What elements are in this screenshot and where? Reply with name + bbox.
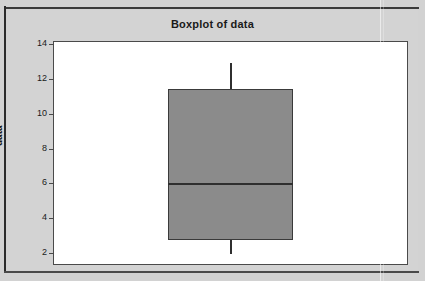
y-axis-tick-mark <box>49 253 53 254</box>
y-axis-tick: 4 <box>7 218 53 219</box>
window-border-bottom <box>4 271 419 273</box>
y-axis-tick-label: 8 <box>42 143 47 153</box>
boxplot-upper-whisker <box>230 63 232 89</box>
y-axis-tick: 12 <box>7 79 53 80</box>
chart-title: Boxplot of data <box>7 18 418 30</box>
y-axis-tick: 8 <box>7 149 53 150</box>
y-axis-tick: 10 <box>7 114 53 115</box>
y-axis-tick: 6 <box>7 183 53 184</box>
window-seam-secondary <box>383 0 384 281</box>
plot-frame <box>53 41 408 265</box>
y-axis-tick-label: 6 <box>42 177 47 187</box>
plot-area <box>54 42 407 264</box>
window-frame: Boxplot of data data 2468101214 <box>0 0 425 281</box>
y-axis-tick-mark <box>49 79 53 80</box>
y-axis-tick-label: 4 <box>42 212 47 222</box>
boxplot-box <box>168 89 293 240</box>
y-axis-label: data <box>0 125 4 146</box>
y-axis-tick-label: 12 <box>37 73 47 83</box>
y-axis-tick-mark <box>49 183 53 184</box>
y-axis-tick-label: 10 <box>37 108 47 118</box>
boxplot-lower-whisker <box>230 240 232 254</box>
boxplot-median-line <box>168 183 293 185</box>
y-axis-tick-mark <box>49 218 53 219</box>
window-border-top <box>4 7 419 9</box>
y-axis-tick-mark <box>49 149 53 150</box>
y-axis-tick-label: 14 <box>37 38 47 48</box>
chart-surface: Boxplot of data data 2468101214 <box>7 10 418 270</box>
y-axis-tick: 14 <box>7 44 53 45</box>
y-axis-tick-label: 2 <box>42 247 47 257</box>
y-axis-tick-mark <box>49 44 53 45</box>
window-seam <box>380 0 381 281</box>
y-axis-tick: 2 <box>7 253 53 254</box>
y-axis-tick-mark <box>49 114 53 115</box>
window-border-left <box>4 6 6 272</box>
